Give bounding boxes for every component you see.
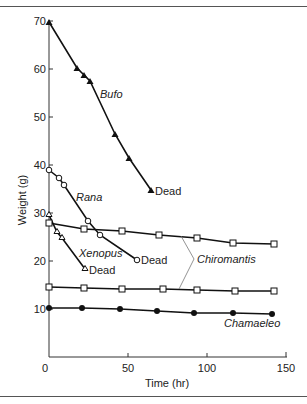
x-axis-title: Time (hr) bbox=[145, 377, 189, 389]
ytick-30: 30 bbox=[34, 207, 46, 219]
label-rana-dead: Dead bbox=[141, 254, 167, 266]
label-xenopus: Xenopus bbox=[78, 247, 123, 259]
chiromantis-bracket bbox=[179, 236, 194, 289]
weight-time-chart: 10 20 30 40 50 60 70 0 50 100 150 Time (… bbox=[0, 0, 307, 404]
ytick-50: 50 bbox=[34, 111, 46, 123]
x-tick-labels: 0 50 100 150 bbox=[42, 362, 295, 374]
label-xenopus-dead: Dead bbox=[89, 264, 115, 276]
label-chamaeleo: Chamaeleo bbox=[224, 317, 280, 329]
y-tick-labels: 10 20 30 40 50 60 70 bbox=[34, 15, 46, 315]
ytick-40: 40 bbox=[34, 159, 46, 171]
series-chiromantis-lower bbox=[46, 284, 277, 294]
xtick-100: 100 bbox=[198, 362, 216, 374]
label-bufo: Bufo bbox=[100, 88, 123, 100]
label-chiromantis: Chiromantis bbox=[197, 253, 256, 265]
label-bufo-dead: Dead bbox=[155, 185, 181, 197]
ytick-10: 10 bbox=[34, 303, 46, 315]
xtick-0: 0 bbox=[42, 362, 48, 374]
ytick-20: 20 bbox=[34, 255, 46, 267]
ytick-70: 70 bbox=[34, 15, 46, 27]
y-axis-title: Weight (g) bbox=[16, 175, 28, 226]
series-chamaeleo: Chamaeleo bbox=[46, 305, 280, 329]
xtick-150: 150 bbox=[277, 362, 295, 374]
ytick-60: 60 bbox=[34, 63, 46, 75]
xtick-50: 50 bbox=[122, 362, 134, 374]
series-bufo: Bufo Dead bbox=[46, 19, 182, 197]
series-xenopus: Xenopus Dead bbox=[46, 212, 123, 277]
label-rana: Rana bbox=[76, 191, 102, 203]
series-chiromantis-upper bbox=[46, 220, 277, 247]
